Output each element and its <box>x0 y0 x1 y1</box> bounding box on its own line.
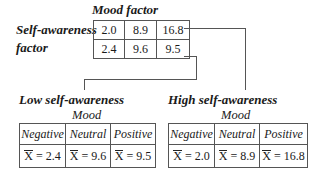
table-row: X = 2.4 X = 9.6 X = 9.5 <box>20 145 156 168</box>
high-mood-label: Mood <box>221 108 250 123</box>
table-header-row: Negative Neutral Positive <box>169 124 308 145</box>
mood-factor-label: Mood factor <box>92 2 158 18</box>
high-mood-table: Negative Neutral Positive X = 2.0 X = 8.… <box>168 123 308 168</box>
connector-low-horizontal <box>84 79 197 80</box>
header-positive: Positive <box>111 124 156 145</box>
connector-low-vertical <box>196 56 197 80</box>
table-row: X = 2.0 X = 8.9 X = 16.8 <box>169 145 308 168</box>
cell: 8.9 <box>125 21 157 40</box>
table-row: 2.0 8.9 16.8 <box>94 21 190 40</box>
cell: 2.0 <box>94 21 125 40</box>
low-self-awareness-title: Low self-awareness <box>19 92 124 108</box>
mean-positive: X = 16.8 <box>260 145 308 168</box>
connector-high-vertical <box>245 28 246 90</box>
header-neutral: Neutral <box>215 124 260 145</box>
mean-negative: X = 2.0 <box>169 145 215 168</box>
header-positive: Positive <box>260 124 308 145</box>
table-row: 2.4 9.6 9.5 <box>94 40 190 59</box>
mean-positive: X = 9.5 <box>111 145 156 168</box>
high-self-awareness-title: High self-awareness <box>168 92 277 108</box>
cell: 9.6 <box>125 40 157 59</box>
header-neutral: Neutral <box>66 124 111 145</box>
cell: 16.8 <box>157 21 190 40</box>
mean-neutral: X = 9.6 <box>66 145 111 168</box>
self-awareness-label: Self-awareness <box>16 22 97 38</box>
cell: 2.4 <box>94 40 125 59</box>
factorial-table: 2.0 8.9 16.8 2.4 9.6 9.5 <box>93 20 190 59</box>
connector-high <box>184 28 246 29</box>
header-negative: Negative <box>169 124 215 145</box>
mean-neutral: X = 8.9 <box>215 145 260 168</box>
table-header-row: Negative Neutral Positive <box>20 124 156 145</box>
header-negative: Negative <box>20 124 66 145</box>
factor-label: factor <box>16 40 48 56</box>
mean-negative: X = 2.4 <box>20 145 66 168</box>
connector-low-drop <box>84 79 85 90</box>
low-mood-table: Negative Neutral Positive X = 2.4 X = 9.… <box>19 123 156 168</box>
low-mood-label: Mood <box>72 108 101 123</box>
